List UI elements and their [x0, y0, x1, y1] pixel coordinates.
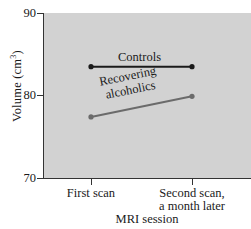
- x-tick-label-second-scan: Second scan, a month later: [137, 187, 247, 213]
- y-tick-mark-80: [37, 95, 43, 96]
- x-tick-mark-first-scan: [91, 179, 92, 185]
- y-tick-label-80: 80: [0, 89, 36, 102]
- y-tick-label-70: 70: [0, 172, 36, 185]
- x-axis-title: MRI session: [43, 212, 251, 227]
- plot-area: [43, 13, 251, 179]
- y-axis-title-close: ): [10, 50, 24, 54]
- y-tick-mark-90: [37, 13, 43, 14]
- y-axis-title: Volume (cm3): [9, 21, 25, 151]
- y-tick-label-90: 90: [0, 7, 36, 20]
- y-axis-title-exponent: 3: [9, 55, 18, 59]
- chart-figure: Volume (cm3) 90 80 70 First scan Second …: [0, 0, 251, 229]
- x-tick-mark-second-scan: [192, 179, 193, 185]
- y-tick-mark-70: [37, 178, 43, 179]
- x-tick-label-first-scan-line1: First scan: [36, 187, 146, 200]
- x-tick-label-first-scan: First scan: [36, 187, 146, 200]
